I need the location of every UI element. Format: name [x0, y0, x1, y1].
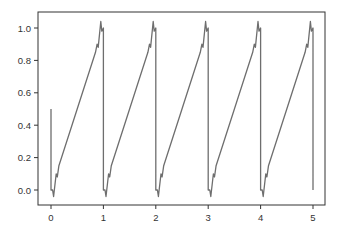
x-tick-label: 0 [48, 212, 53, 223]
x-tick-label: 1 [101, 212, 106, 223]
y-tick-label: 0.6 [18, 87, 31, 98]
x-tick-label: 2 [153, 212, 158, 223]
y-tick-label: 0.2 [18, 152, 31, 163]
chart: 0.00.20.40.60.81.0 012345 [0, 0, 337, 233]
y-tick-label: 1.0 [18, 23, 31, 34]
y-tick-label: 0.0 [18, 185, 31, 196]
y-tick-label: 0.8 [18, 55, 31, 66]
y-tick-label: 0.4 [18, 120, 31, 131]
y-axis: 0.00.20.40.60.81.0 [18, 23, 38, 196]
x-tick-label: 3 [206, 212, 211, 223]
x-tick-label: 4 [258, 212, 263, 223]
x-axis: 012345 [48, 205, 315, 223]
x-tick-label: 5 [310, 212, 315, 223]
